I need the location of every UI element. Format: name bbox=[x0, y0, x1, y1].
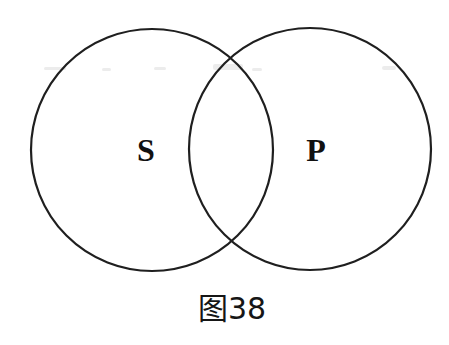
label-p: P bbox=[306, 132, 326, 168]
figure-caption: 图38 bbox=[198, 291, 266, 326]
venn-diagram-svg: S P 图38 bbox=[0, 0, 449, 345]
label-s: S bbox=[137, 132, 155, 168]
venn-diagram-figure: S P 图38 bbox=[0, 0, 449, 345]
